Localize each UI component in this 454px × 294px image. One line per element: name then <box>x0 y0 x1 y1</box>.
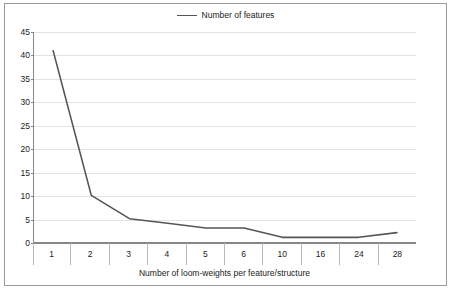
xaxis-category-label: 16 <box>316 250 325 259</box>
ytick-label-45: 45 <box>21 28 30 37</box>
legend-line-swatch <box>177 15 197 16</box>
xaxis-category-label: 1 <box>49 250 54 259</box>
xaxis-category-cell: 10 <box>263 243 301 265</box>
xaxis-category-cell: 24 <box>340 243 378 265</box>
ytick-label-0: 0 <box>25 239 30 248</box>
plot-wrapper: 051015202530354045 <box>33 32 416 243</box>
ytick-label-10: 10 <box>21 192 30 201</box>
xaxis-category-cell: 3 <box>110 243 148 265</box>
xaxis-category-label: 2 <box>88 250 93 259</box>
ytick-label-35: 35 <box>21 75 30 84</box>
xaxis-category-label: 3 <box>126 250 131 259</box>
xaxis-category-cell: 2 <box>71 243 109 265</box>
xaxis-category-cell: 5 <box>187 243 225 265</box>
xaxis-category-cell: 6 <box>225 243 263 265</box>
plot-area: 051015202530354045 <box>33 32 416 243</box>
xaxis-category-label: 24 <box>354 250 363 259</box>
xaxis-category-label: 6 <box>241 250 246 259</box>
xaxis-category-label: 10 <box>277 250 286 259</box>
ytick-label-40: 40 <box>21 51 30 60</box>
series-line-chart <box>34 32 416 242</box>
ytick-label-30: 30 <box>21 98 30 107</box>
xaxis-category-cell: 1 <box>33 243 71 265</box>
xaxis-category-cell: 16 <box>302 243 340 265</box>
xaxis-category-label: 4 <box>165 250 170 259</box>
series-polyline-number-of-features <box>53 51 397 238</box>
xaxis-category-label: 28 <box>393 250 402 259</box>
xaxis-category-band: 12345610162428 <box>33 243 416 265</box>
xaxis-category-cell: 28 <box>379 243 416 265</box>
ytick-label-25: 25 <box>21 122 30 131</box>
ytick-label-15: 15 <box>21 168 30 177</box>
chart-legend: Number of features <box>5 11 446 20</box>
ytick-label-20: 20 <box>21 145 30 154</box>
chart-frame: Number of features 051015202530354045 12… <box>4 3 447 286</box>
xaxis-title: Number of loom-weights per feature/struc… <box>33 269 416 278</box>
xaxis-category-label: 5 <box>203 250 208 259</box>
xaxis-category-cell: 4 <box>148 243 186 265</box>
ytick-label-5: 5 <box>25 215 30 224</box>
legend-label: Number of features <box>202 11 275 20</box>
